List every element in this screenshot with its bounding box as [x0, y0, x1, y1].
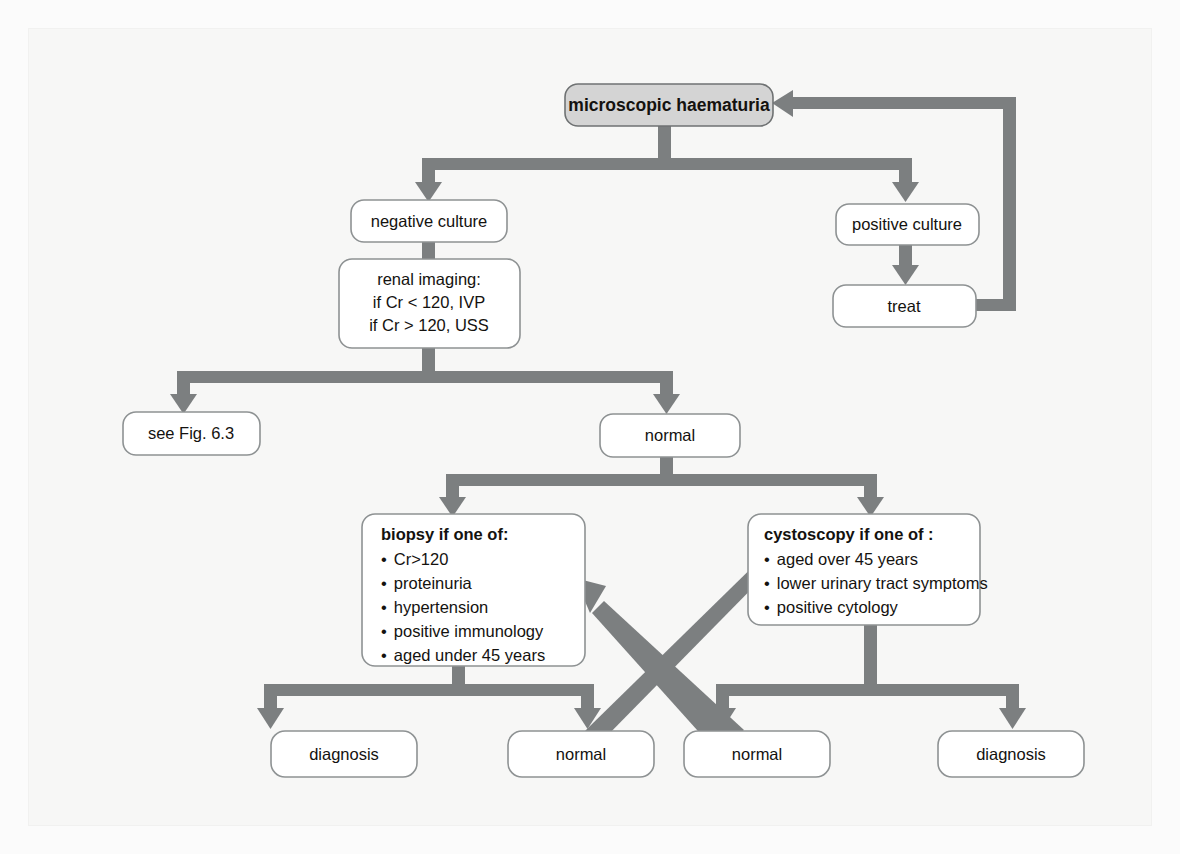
node-label-cystoscopy-bullet-3: •positive cytology [764, 598, 899, 616]
bullet-glyph: • [381, 574, 387, 592]
bullet-glyph: • [764, 574, 770, 592]
node-renal-imaging[interactable]: renal imaging: if Cr < 120, IVP if Cr > … [339, 259, 520, 348]
node-cystoscopy-normal[interactable]: normal [684, 731, 830, 777]
bullet-glyph: • [381, 646, 387, 664]
node-normal-imaging[interactable]: normal [600, 414, 740, 457]
node-treat[interactable]: treat [833, 285, 976, 327]
node-label-positive-culture: positive culture [852, 215, 962, 233]
node-label-negative-culture: negative culture [371, 212, 488, 230]
node-biopsy[interactable]: biopsy if one of: •Cr>120 •proteinuria •… [362, 514, 585, 666]
bullet-glyph: • [764, 598, 770, 616]
bullet-glyph: • [764, 550, 770, 568]
bullet-glyph: • [381, 622, 387, 640]
node-cystoscopy[interactable]: cystoscopy if one of : •aged over 45 yea… [748, 514, 988, 625]
node-label-normal-imaging: normal [645, 426, 695, 444]
edge-renal-imaging-split [170, 347, 680, 414]
edge-haematuria-split [415, 124, 919, 202]
figure-page: microscopic haematuria negative culture … [0, 0, 1180, 854]
node-label-renal-imaging-line-2: if Cr < 120, IVP [373, 293, 485, 311]
node-label-see-fig: see Fig. 6.3 [148, 424, 234, 442]
node-label-treat: treat [887, 297, 920, 315]
node-label-cystoscopy-diagnosis: diagnosis [976, 745, 1046, 763]
node-positive-culture[interactable]: positive culture [836, 204, 979, 245]
edge-cystoscopy-split [709, 625, 1026, 729]
node-label-cystoscopy-bullet-2: •lower urinary tract symptoms [764, 574, 988, 592]
node-label-biopsy-heading: biopsy if one of: [381, 525, 508, 543]
node-label-cystoscopy-bullet-1: •aged over 45 years [764, 550, 918, 568]
node-label-biopsy-bullet-2: •proteinuria [381, 574, 473, 592]
node-label-biopsy-bullet-3: •hypertension [381, 598, 488, 616]
node-label-renal-imaging-line-1: renal imaging: [377, 270, 481, 288]
edge-treat-haematuria-return [772, 90, 1016, 311]
node-label-biopsy-bullet-4: •positive immunology [381, 622, 544, 640]
node-label-cystoscopy-heading: cystoscopy if one of : [764, 525, 934, 543]
node-biopsy-diagnosis[interactable]: diagnosis [271, 731, 417, 777]
bullet-glyph: • [381, 598, 387, 616]
node-label-biopsy-bullet-5: •aged under 45 years [381, 646, 545, 664]
edge-normal-split [439, 456, 884, 517]
connectors [170, 90, 1026, 742]
node-negative-culture[interactable]: negative culture [351, 200, 507, 242]
flowchart-svg: microscopic haematuria negative culture … [0, 0, 1180, 854]
node-biopsy-normal[interactable]: normal [508, 731, 654, 777]
node-label-biopsy-diagnosis: diagnosis [309, 745, 379, 763]
node-see-fig-6-3[interactable]: see Fig. 6.3 [123, 412, 260, 455]
node-cystoscopy-diagnosis[interactable]: diagnosis [938, 731, 1084, 777]
edge-positive-culture-treat [892, 244, 919, 285]
node-label-haematuria: microscopic haematuria [568, 95, 770, 115]
node-label-biopsy-normal: normal [556, 745, 606, 763]
node-label-cystoscopy-normal: normal [732, 745, 782, 763]
node-microscopic-haematuria[interactable]: microscopic haematuria [565, 84, 773, 126]
edge-biopsy-split [257, 664, 601, 729]
edge-negative-culture-renal-imaging [422, 241, 435, 260]
bullet-glyph: • [381, 550, 387, 568]
node-label-renal-imaging-line-3: if Cr > 120, USS [369, 316, 489, 334]
